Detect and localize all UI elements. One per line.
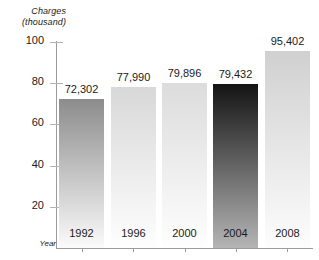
bar-value-label: 95,402 [255, 35, 319, 47]
x-axis-title: Year [22, 239, 56, 248]
x-axis-tick-mark [236, 248, 237, 252]
x-axis-tick-mark [133, 248, 134, 252]
x-axis-tick-mark [82, 248, 83, 252]
bar-chart: Charges (thousand) 20406080100 72,302199… [0, 0, 319, 260]
y-axis-title-line-2: (thousand) [0, 17, 66, 28]
bar-value-label: 79,432 [203, 68, 268, 80]
bar[interactable] [111, 87, 156, 248]
y-axis-tick-label: 20 [32, 199, 44, 211]
bar[interactable] [265, 51, 310, 248]
y-axis-tick-label: 60 [32, 116, 44, 128]
bar[interactable] [213, 84, 258, 248]
y-axis-tick-label: 100 [26, 34, 44, 46]
bar[interactable] [59, 99, 104, 248]
x-axis-tick-mark [185, 248, 186, 252]
y-axis-title: Charges (thousand) [0, 6, 66, 28]
y-axis-tick-label: 40 [32, 158, 44, 170]
bar[interactable] [162, 83, 207, 248]
y-axis-title-line-1: Charges [31, 6, 66, 16]
y-axis-tick-label: 80 [32, 75, 44, 87]
bar-value-label: 72,302 [49, 83, 114, 95]
x-axis-category-label: 2008 [255, 227, 319, 239]
y-axis-tick-mark [50, 42, 63, 43]
x-axis-tick-mark [287, 248, 288, 252]
y-axis-line [56, 41, 57, 249]
